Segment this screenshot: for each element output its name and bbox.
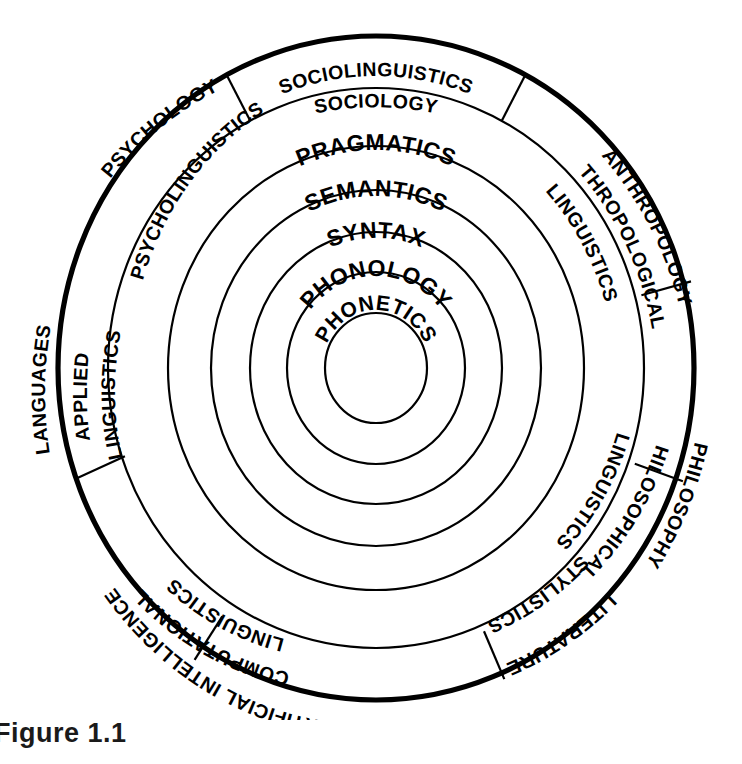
figure-container: PRAGMATICS SEMANTICS SYNTAX PHONOLOGY PH…: [0, 0, 742, 764]
label-sociology: SOCIOLOGY: [312, 89, 440, 117]
ring-semantics: [211, 190, 541, 546]
label-semantics: SEMANTICS: [300, 175, 451, 217]
divider-applied-psycho: [77, 456, 125, 478]
divider-literature-stylistics: [484, 631, 504, 679]
divider-socio-anthro: [502, 75, 526, 121]
linguistics-scope-diagram: PRAGMATICS SEMANTICS SYNTAX PHONOLOGY PH…: [0, 0, 742, 720]
ring-pragmatics: [168, 146, 584, 590]
label-applied: APPLIED: [69, 351, 94, 442]
label-applied-linguistics: LINGUISTICS: [97, 328, 126, 462]
label-syntax: SYNTAX: [323, 217, 429, 253]
label-phonetics: PHONETICS: [310, 291, 442, 346]
label-pragmatics: PRAGMATICS: [292, 129, 460, 171]
label-languages: LANGUAGES: [27, 323, 55, 456]
figure-caption: Figure 1.1: [0, 718, 127, 749]
